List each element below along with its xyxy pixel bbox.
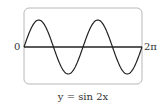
x-tick-label-zero: 0 <box>14 42 20 52</box>
x-tick-label-two-pi: 2π <box>144 42 157 52</box>
chart-caption: y = sin 2x <box>0 91 166 102</box>
